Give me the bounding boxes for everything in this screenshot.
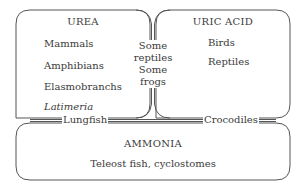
ammonia-item-teleost: Teleost fish, cyclostomes	[16, 158, 290, 170]
urea-item-elasmobranchs: Elasmobranchs	[44, 81, 122, 93]
overlap-line-4: frogs	[132, 76, 174, 88]
urea-title: UREA	[16, 16, 150, 28]
urea-item-mammals: Mammals	[44, 38, 93, 50]
lungfish-label: Lungfish	[62, 114, 108, 126]
crocodiles-label: Crocodiles	[203, 114, 259, 126]
overlap-line-1: Some	[132, 40, 174, 52]
overlap-line-2: reptiles	[132, 52, 174, 64]
uric-acid-item-reptiles: Reptiles	[208, 56, 249, 68]
urea-item-latimeria: Latimeria	[44, 101, 93, 113]
urea-item-amphibians: Amphibians	[44, 60, 104, 72]
uric-acid-item-birds: Birds	[208, 37, 235, 49]
urea-uric-overlap: Some reptiles Some frogs	[132, 40, 174, 88]
uric-acid-title: URIC ACID	[156, 16, 290, 28]
ammonia-title: AMMONIA	[16, 138, 290, 150]
overlap-line-3: Some	[132, 64, 174, 76]
